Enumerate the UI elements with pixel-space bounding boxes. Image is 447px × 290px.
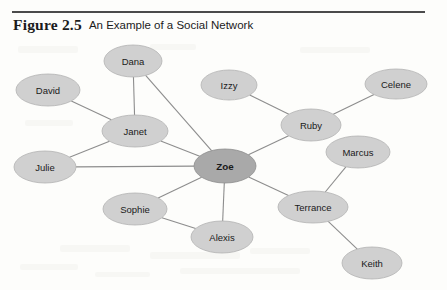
node-label-terrance: Terrance bbox=[295, 202, 332, 213]
graph-node-zoe[interactable]: Zoe bbox=[194, 149, 256, 183]
node-label-alexis: Alexis bbox=[209, 232, 235, 243]
graph-node-keith[interactable]: Keith bbox=[342, 247, 402, 279]
node-label-marcus: Marcus bbox=[342, 147, 373, 158]
graph-node-izzy[interactable]: Izzy bbox=[201, 70, 257, 100]
graph-edge-terrance-keith bbox=[328, 221, 357, 249]
graph-node-terrance[interactable]: Terrance bbox=[278, 191, 348, 223]
graph-edge-dana-janet bbox=[133, 77, 134, 115]
graph-node-sophie[interactable]: Sophie bbox=[103, 193, 167, 225]
graph-node-dana[interactable]: Dana bbox=[104, 45, 162, 77]
graph-edge-ruby-zoe bbox=[248, 136, 288, 155]
graph-edge-zoe-alexis bbox=[223, 183, 225, 221]
node-label-ruby: Ruby bbox=[300, 120, 322, 131]
graph-edge-zoe-sophie bbox=[158, 177, 201, 198]
node-label-sophie: Sophie bbox=[120, 204, 150, 215]
node-label-zoe: Zoe bbox=[216, 161, 234, 172]
graph-edge-terrance-marcus bbox=[325, 167, 346, 192]
node-label-julie: Julie bbox=[35, 162, 55, 173]
node-label-keith: Keith bbox=[361, 258, 383, 269]
graph-edge-izzy-ruby bbox=[250, 95, 289, 114]
graph-node-david[interactable]: David bbox=[16, 74, 80, 106]
node-label-david: David bbox=[36, 85, 60, 96]
node-layer: DanaDavidIzzyCeleneJanetRubyMarcusJulieZ… bbox=[14, 45, 427, 279]
graph-node-alexis[interactable]: Alexis bbox=[191, 221, 253, 253]
node-label-izzy: Izzy bbox=[221, 80, 238, 91]
graph-node-janet[interactable]: Janet bbox=[102, 115, 168, 147]
figure-container: Figure 2.5An Example of a Social Network… bbox=[0, 0, 447, 290]
graph-node-celene[interactable]: Celene bbox=[365, 69, 427, 99]
graph-edge-zoe-terrance bbox=[249, 177, 289, 196]
graph-node-julie[interactable]: Julie bbox=[14, 151, 76, 183]
social-network-graph: DanaDavidIzzyCeleneJanetRubyMarcusJulieZ… bbox=[0, 0, 447, 290]
node-label-celene: Celene bbox=[381, 79, 411, 90]
graph-edge-celene-ruby bbox=[333, 95, 374, 115]
node-label-dana: Dana bbox=[122, 56, 145, 67]
graph-edge-julie-zoe bbox=[76, 166, 194, 167]
node-label-janet: Janet bbox=[123, 126, 147, 137]
graph-edge-janet-julie bbox=[70, 141, 110, 157]
graph-edge-david-janet bbox=[71, 101, 111, 120]
graph-node-marcus[interactable]: Marcus bbox=[326, 136, 390, 168]
graph-edge-sophie-alexis bbox=[162, 218, 196, 229]
graph-node-ruby[interactable]: Ruby bbox=[281, 109, 341, 141]
graph-edge-janet-zoe bbox=[161, 141, 200, 156]
